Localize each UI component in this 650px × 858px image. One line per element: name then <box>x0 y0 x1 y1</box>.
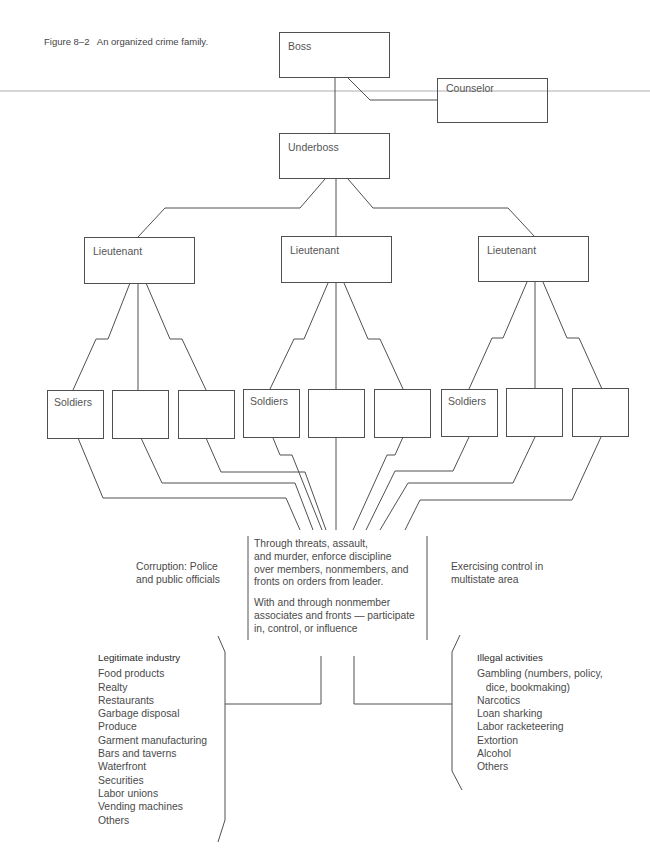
list-item: Narcotics <box>477 694 603 707</box>
soldiers-label: Soldiers <box>250 395 288 407</box>
lieutenant-label: Lieutenant <box>290 244 339 256</box>
underboss-label: Underboss <box>288 141 339 153</box>
multistate-note: Exercising control in multistate area <box>451 561 543 587</box>
list-item: Loan sharking <box>477 707 603 720</box>
counselor-label: Counselor <box>446 82 494 94</box>
soldiers-label: Soldiers <box>448 395 486 407</box>
counselor-box: Counselor <box>437 78 548 123</box>
list-item: Bars and taverns <box>98 747 207 760</box>
list-item: Food products <box>98 667 207 680</box>
soldier-box <box>572 388 629 437</box>
illegal-activities-heading: Illegal activities <box>477 651 603 664</box>
lieutenant-box-middle: Lieutenant <box>281 236 392 283</box>
legitimate-industry-heading: Legitimate industry <box>98 651 207 664</box>
list-item: Extortion <box>477 734 603 747</box>
boss-box: Boss <box>279 32 390 78</box>
discipline-text: Through threats, assault, and murder, en… <box>254 538 415 589</box>
list-item: Produce <box>98 720 207 733</box>
list-item: Others <box>477 760 603 773</box>
lieutenant-box-left: Lieutenant <box>84 237 195 284</box>
list-item: Securities <box>98 774 207 787</box>
list-item: Garbage disposal <box>98 707 207 720</box>
soldier-box: Soldiers <box>47 390 104 439</box>
list-item: Labor racketeering <box>477 720 603 733</box>
list-item: Vending machines <box>98 800 207 813</box>
lieutenant-label: Lieutenant <box>93 245 142 257</box>
lieutenant-label: Lieutenant <box>487 244 536 256</box>
soldiers-label: Soldiers <box>54 396 92 408</box>
legitimate-industry-list: Legitimate industry Food products Realty… <box>98 651 207 827</box>
lieutenant-box-right: Lieutenant <box>478 236 589 282</box>
list-item: Waterfront <box>98 760 207 773</box>
soldier-box: Soldiers <box>441 389 498 437</box>
soldier-box <box>112 390 169 439</box>
list-item: Others <box>98 814 207 827</box>
list-item: Garment manufacturing <box>98 734 207 747</box>
list-item: dice, bookmaking) <box>477 681 603 694</box>
center-note: Through threats, assault, and murder, en… <box>254 538 415 636</box>
illegal-activities-list: Illegal activities Gambling (numbers, po… <box>477 651 603 774</box>
underboss-box: Underboss <box>279 133 390 179</box>
soldier-box <box>506 388 563 437</box>
soldier-box <box>308 389 365 438</box>
soldier-box <box>178 390 235 439</box>
corruption-note: Corruption: Police and public officials <box>136 561 220 587</box>
list-item: Gambling (numbers, policy, <box>477 667 603 680</box>
list-item: Alcohol <box>477 747 603 760</box>
soldier-box: Soldiers <box>243 389 300 438</box>
figure-caption: Figure 8–2 An organized crime family. <box>44 36 208 47</box>
boss-label: Boss <box>288 40 311 52</box>
list-item: Labor unions <box>98 787 207 800</box>
list-item: Restaurants <box>98 694 207 707</box>
list-item: Realty <box>98 681 207 694</box>
soldier-box <box>374 389 431 438</box>
associates-text: With and through nonmember associates an… <box>254 597 415 635</box>
